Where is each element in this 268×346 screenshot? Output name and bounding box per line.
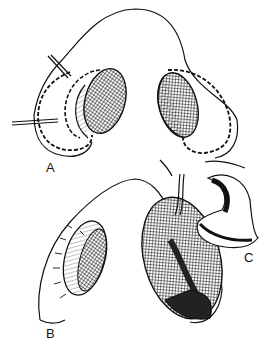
panel-label-a: A <box>46 161 55 174</box>
panel-label-c: C <box>244 251 253 264</box>
panel-c-drawing <box>197 175 258 248</box>
panel-label-b: B <box>46 327 55 340</box>
nose-drawing <box>0 0 268 346</box>
panel-a-drawing <box>12 9 245 176</box>
illustration <box>0 0 268 346</box>
panel-b-drawing <box>39 174 235 328</box>
